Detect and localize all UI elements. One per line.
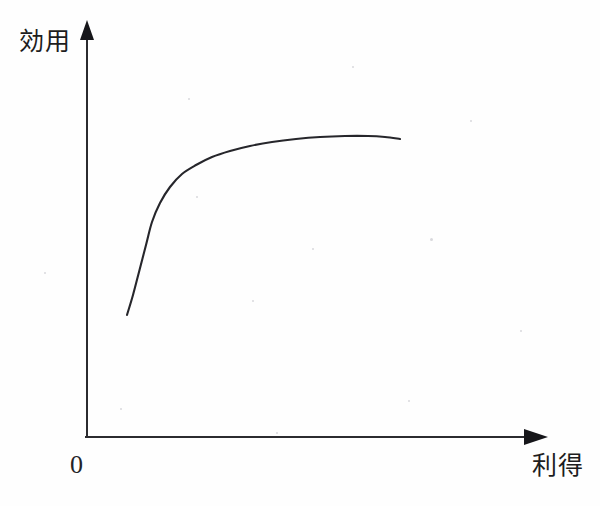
y-axis-label: 効用 bbox=[19, 29, 71, 54]
utility-curve-figure: 効用 利得 0 bbox=[0, 0, 600, 506]
x-axis-arrow-icon bbox=[524, 429, 548, 445]
utility-curve-path bbox=[127, 136, 400, 315]
x-axis-label: 利得 bbox=[532, 453, 584, 478]
figure-canvas bbox=[0, 0, 600, 506]
origin-label: 0 bbox=[70, 452, 83, 478]
y-axis-arrow-icon bbox=[80, 20, 94, 40]
